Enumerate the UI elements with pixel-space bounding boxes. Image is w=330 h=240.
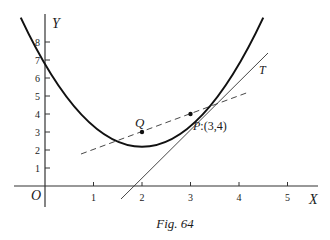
x-tick-label: 1 — [91, 192, 96, 203]
y-tick-label: 6 — [35, 73, 40, 84]
y-tick-label: 5 — [35, 91, 40, 102]
point-q — [140, 130, 144, 134]
y-tick-label: 7 — [35, 55, 40, 66]
y-tick-label: 2 — [35, 145, 40, 156]
y-tick-label: 1 — [35, 163, 40, 174]
x-tick-label: 2 — [140, 192, 145, 203]
figure-canvas: 1 2 3 4 5 1 2 3 4 5 6 7 8 Y X O Q P:(3,4… — [0, 0, 330, 240]
x-tick-label: 4 — [237, 192, 242, 203]
origin-label: O — [31, 188, 41, 203]
y-axis-label: Y — [52, 16, 62, 31]
x-axis-label: X — [308, 192, 318, 207]
point-p — [188, 112, 192, 116]
x-tick-label: 5 — [285, 192, 290, 203]
y-ticks — [45, 42, 50, 168]
y-tick-label: 3 — [35, 127, 40, 138]
figure-caption: Fig. 64 — [155, 216, 194, 231]
point-p-label: P:(3,4) — [192, 119, 227, 133]
y-tick-label: 4 — [35, 109, 40, 120]
tangent-label: T — [259, 63, 267, 77]
x-tick-label: 3 — [188, 192, 193, 203]
point-q-label: Q — [135, 115, 145, 130]
